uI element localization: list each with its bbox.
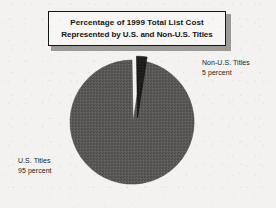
pie-chart-svg (0, 0, 276, 208)
pie-slice-us (70, 60, 194, 184)
callout-us-titles: U.S. Titles 95 percent (18, 156, 52, 176)
callout-non-us-name: Non-U.S. Titles (202, 59, 250, 66)
callout-non-us-titles: Non-U.S. Titles 5 percent (202, 58, 250, 78)
callout-us-value: 95 percent (18, 166, 52, 176)
callout-non-us-value: 5 percent (202, 68, 250, 78)
figure-canvas: Percentage of 1999 Total List Cost Repre… (0, 0, 276, 208)
callout-us-name: U.S. Titles (18, 157, 50, 164)
pie-chart (0, 0, 276, 208)
